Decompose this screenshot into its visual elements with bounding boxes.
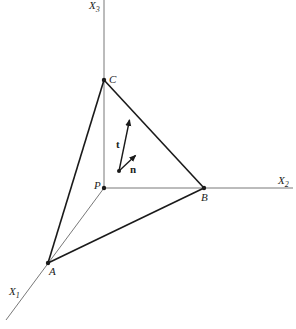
point-b <box>202 186 206 190</box>
point-a-label: A <box>48 265 56 277</box>
point-p <box>102 186 106 190</box>
t-vector-label: t <box>116 138 120 150</box>
x1-axis <box>6 188 104 320</box>
n-vector-label: n <box>130 163 136 175</box>
edge-ab <box>48 188 204 263</box>
x3-axis-label: X3 <box>88 0 100 14</box>
x2-axis-label: X2 <box>277 174 289 189</box>
point-c-label: C <box>109 73 117 85</box>
point-c <box>102 78 106 82</box>
x1-axis-label: X1 <box>8 285 20 300</box>
edge-ca <box>48 80 104 263</box>
point-b-label: B <box>201 191 208 203</box>
tetrahedron-diagram: X3 X2 X1 C P B A t n <box>0 0 296 329</box>
point-p-label: P <box>93 179 101 191</box>
